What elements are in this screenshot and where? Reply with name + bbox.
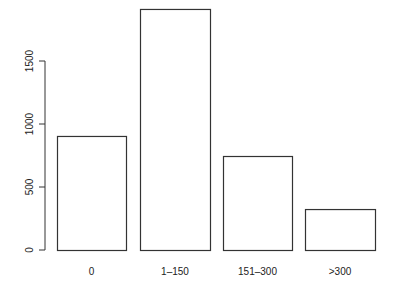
x-axis-labels: 01–150151–300>300 (89, 266, 352, 277)
y-tick-label: 1500 (24, 49, 35, 72)
x-tick-label: 1–150 (161, 266, 189, 277)
bar-0 (58, 136, 127, 250)
x-tick-label: >300 (329, 266, 352, 277)
x-tick-label: 151–300 (238, 266, 277, 277)
bars (58, 9, 376, 250)
bar-1 (141, 9, 211, 250)
y-axis: 050010001500 (24, 49, 45, 252)
bar-2 (224, 157, 293, 251)
x-tick-label: 0 (89, 266, 95, 277)
y-tick-label: 500 (24, 178, 35, 195)
bar-chart: 050010001500 01–150151–300>300 (0, 0, 395, 295)
y-tick-label: 1000 (24, 112, 35, 135)
y-tick-label: 0 (24, 247, 35, 253)
bar-3 (306, 210, 376, 251)
